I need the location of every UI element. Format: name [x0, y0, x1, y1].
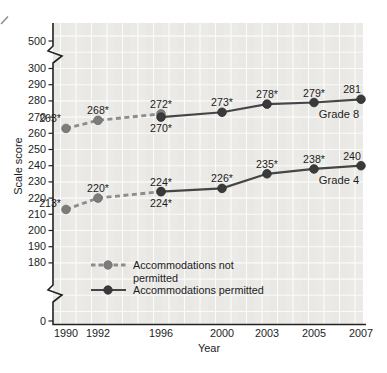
grid-band — [69, 23, 85, 325]
legend-dashed-marker-icon — [104, 261, 112, 269]
chart-figure: 5003002902802702602502402302202102001901… — [0, 0, 387, 373]
x-axis-tick-label: 2005 — [302, 327, 326, 339]
x-axis-tick-label: 1996 — [149, 327, 173, 339]
data-point-marker — [218, 108, 227, 117]
y-axis-tick-label: 0 — [40, 315, 46, 327]
data-point-label: 281 — [343, 83, 361, 95]
data-point-label: 224* — [150, 197, 172, 209]
legend-label: Accommodations permitted — [133, 284, 264, 296]
x-axis-tick-label: 1990 — [54, 327, 78, 339]
data-point-marker — [263, 170, 272, 179]
data-point-label: 240 — [343, 150, 361, 162]
data-point-label: 226* — [211, 172, 233, 184]
page-artifact-mark — [1, 17, 8, 25]
grid-band — [286, 23, 302, 325]
data-point-marker — [157, 187, 166, 196]
naep-scale-score-line-chart: 5003002902802702602502402302202102001901… — [0, 0, 387, 373]
x-axis-title: Year — [198, 342, 221, 354]
data-point-label: 279* — [303, 87, 325, 99]
y-axis-tick-label: 200 — [28, 224, 46, 236]
data-point-marker — [94, 116, 103, 125]
x-axis-tick-label: 2007 — [349, 327, 373, 339]
y-axis-tick-label: 280 — [28, 94, 46, 106]
data-point-marker — [62, 205, 71, 214]
data-point-label: 268* — [87, 104, 109, 116]
data-point-marker — [357, 95, 366, 104]
data-point-marker — [62, 124, 71, 133]
y-axis-tick-label: 190 — [28, 240, 46, 252]
data-point-marker — [310, 98, 319, 107]
data-point-marker — [263, 100, 272, 109]
y-axis-tick-label: 250 — [28, 143, 46, 155]
x-axis-tick-label: 1992 — [86, 327, 110, 339]
data-point-marker — [157, 113, 166, 122]
y-axis-tick-label: 240 — [28, 159, 46, 171]
y-axis-tick-label: 260 — [28, 127, 46, 139]
data-point-label: 270* — [150, 122, 172, 134]
legend-label: Accommodations not — [133, 259, 234, 271]
data-point-marker — [218, 184, 227, 193]
grade-annotation-label: Grade 8 — [319, 108, 359, 120]
data-point-label: 263* — [39, 112, 61, 124]
data-point-label: 272* — [150, 98, 172, 110]
data-point-marker — [357, 161, 366, 170]
legend-label: permitted — [133, 272, 178, 284]
data-point-label: 278* — [256, 88, 278, 100]
y-axis-tick-label: 230 — [28, 175, 46, 187]
data-point-marker — [94, 194, 103, 203]
y-axis-tick-label: 300 — [28, 62, 46, 74]
grid-band — [100, 23, 116, 325]
data-point-marker — [310, 165, 319, 174]
data-point-label: 273* — [211, 96, 233, 108]
data-point-label: 224* — [150, 176, 172, 188]
grid-band — [193, 23, 209, 325]
data-point-label: 220* — [87, 182, 109, 194]
y-axis-tick-label: 500 — [28, 35, 46, 47]
data-point-label: 235* — [256, 158, 278, 170]
x-axis-tick-label: 2003 — [255, 327, 279, 339]
legend-solid-marker-icon — [104, 286, 112, 294]
y-axis-title: Scale score — [12, 137, 24, 194]
data-point-label: 238* — [303, 153, 325, 165]
x-axis-tick-label: 2000 — [210, 327, 234, 339]
y-axis-tick-label: 210 — [28, 208, 46, 220]
grade-annotation-label: Grade 4 — [319, 174, 359, 186]
data-point-label: 213* — [39, 197, 61, 209]
y-axis-tick-label: 180 — [28, 256, 46, 268]
y-axis-tick-label: 290 — [28, 78, 46, 90]
